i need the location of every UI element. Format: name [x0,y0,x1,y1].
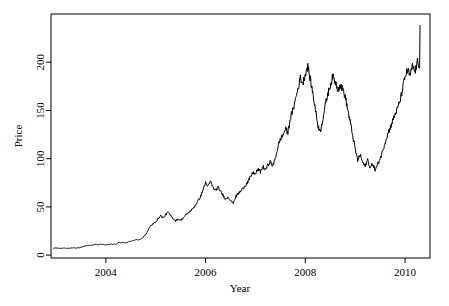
y-tick-label: 150 [34,102,46,119]
x-tick-label: 2010 [394,266,417,278]
y-tick-label: 100 [34,150,46,167]
y-tick-label: 200 [34,53,46,70]
x-axis-title: Year [230,282,251,294]
x-tick-label: 2006 [195,266,218,278]
x-tick-label: 2004 [95,266,118,278]
y-tick-label: 50 [34,201,46,213]
y-tick-label: 0 [34,252,46,258]
y-axis-title: Price [12,125,24,148]
chart-container: 2004200620082010 050100150200 Year Price [0,0,449,306]
x-tick-label: 2008 [294,266,317,278]
price-vs-year-line-chart: 2004200620082010 050100150200 Year Price [0,0,449,306]
